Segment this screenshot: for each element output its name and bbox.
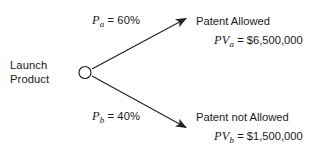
outcome-value-variable-lower: PV [214,129,230,143]
probability-value-lower: = 40% [104,110,140,122]
chance-node-circle [79,67,91,79]
outcome-title-lower: Patent not Allowed [196,110,303,124]
outcome-value-amount-lower: = $1,500,000 [234,130,303,142]
root-node-label-line2: Product [10,72,49,86]
branch-probability-lower: Pb = 40% [92,110,140,128]
probability-variable-lower: P [92,109,100,123]
root-node-label: Launch Product [10,58,49,86]
probability-value-upper: = 60% [104,14,140,26]
outcome-node-lower: Patent not Allowed PVb = $1,500,000 [196,110,303,147]
outcome-value-variable-upper: PV [214,33,230,47]
outcome-node-upper: Patent Allowed PVa = $6,500,000 [196,14,303,51]
outcome-value-upper: PVa = $6,500,000 [196,33,303,51]
root-node-label-line1: Launch [10,58,49,72]
outcome-title-upper: Patent Allowed [196,14,303,28]
branch-probability-upper: Pa = 60% [92,14,140,32]
outcome-value-amount-upper: = $6,500,000 [234,34,303,46]
probability-variable-upper: P [92,13,100,27]
decision-tree-diagram: Launch Product Pa = 60% Pb = 40% Patent … [0,0,323,156]
outcome-value-lower: PVb = $1,500,000 [196,129,303,147]
